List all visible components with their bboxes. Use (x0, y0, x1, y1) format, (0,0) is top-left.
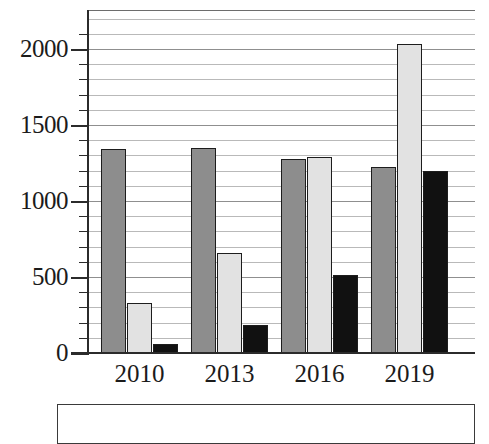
bar (127, 303, 152, 353)
y-tick-major (71, 277, 89, 279)
y-tick-minor (79, 34, 88, 35)
y-tick-minor (79, 231, 88, 232)
bar (191, 148, 216, 353)
y-tick-minor (79, 307, 88, 308)
bar (423, 171, 448, 353)
bar (371, 167, 396, 353)
y-tick-minor (79, 292, 88, 293)
bar (243, 325, 268, 353)
bar (281, 159, 306, 353)
legend-box (57, 404, 475, 444)
y-tick-minor (79, 171, 88, 172)
y-axis-line (87, 10, 89, 354)
y-tick-minor (79, 95, 88, 96)
y-tick-minor (79, 247, 88, 248)
x-axis-tick-label: 2010 (100, 360, 180, 388)
x-axis-line (71, 352, 475, 354)
y-axis-tick-label: 2000 (2, 36, 68, 61)
y-tick-minor (79, 64, 88, 65)
bar (333, 275, 358, 353)
y-axis-tick-label: 0 (2, 340, 68, 365)
x-axis-tick-label: 2016 (280, 360, 360, 388)
bar (307, 157, 332, 353)
y-tick-minor (79, 338, 88, 339)
bars-layer (89, 10, 475, 353)
y-tick-minor (79, 155, 88, 156)
y-tick-minor (79, 79, 88, 80)
y-tick-major (71, 49, 89, 51)
y-axis-tick-label: 500 (2, 264, 68, 289)
y-axis-tick-label: 1000 (2, 188, 68, 213)
x-axis-tick-label: 2019 (370, 360, 450, 388)
y-axis-tick-label: 1500 (2, 112, 68, 137)
y-tick-major (71, 201, 89, 203)
y-tick-minor (79, 140, 88, 141)
y-tick-minor (79, 110, 88, 111)
bar (217, 253, 242, 353)
y-tick-minor (79, 186, 88, 187)
y-tick-major (71, 125, 89, 127)
x-axis-tick-label: 2013 (190, 360, 270, 388)
y-tick-major (71, 353, 89, 355)
y-tick-minor (79, 323, 88, 324)
bar (101, 149, 126, 353)
y-tick-minor (79, 262, 88, 263)
y-tick-minor (79, 216, 88, 217)
bar (397, 44, 422, 353)
